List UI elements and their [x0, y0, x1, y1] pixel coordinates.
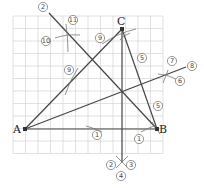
- svg-text:5: 5: [140, 54, 144, 62]
- step-label-s2a: 2: [38, 2, 47, 11]
- step-label-s11: 11: [68, 15, 77, 24]
- svg-text:2: 2: [109, 161, 113, 169]
- vertex-a-marker: [23, 127, 27, 131]
- step-label-s10: 10: [41, 36, 50, 45]
- svg-text:4: 4: [119, 172, 123, 180]
- line-8-from-a: [25, 67, 186, 129]
- step-label-s5b: 5: [153, 101, 162, 110]
- construction-lines: [25, 13, 186, 162]
- step-label-s2b: 2: [106, 160, 115, 169]
- svg-text:2: 2: [41, 3, 45, 11]
- svg-text:1: 1: [137, 135, 141, 143]
- svg-text:9: 9: [98, 34, 102, 42]
- step-label-s9a: 9: [95, 33, 104, 42]
- step-label-s3: 3: [126, 160, 135, 169]
- svg-text:10: 10: [42, 37, 50, 45]
- step-label-s1a: 1: [92, 130, 101, 139]
- side-bc: [122, 29, 157, 129]
- svg-text:1: 1: [95, 131, 99, 139]
- step-label-s6: 6: [175, 76, 184, 85]
- label-c: C: [117, 15, 125, 28]
- construction-arcs: [55, 24, 176, 168]
- step-label-s4: 4: [116, 171, 125, 180]
- svg-text:11: 11: [69, 16, 77, 24]
- step-label-s1b: 1: [134, 134, 143, 143]
- step-label-s7: 7: [167, 56, 176, 65]
- svg-text:7: 7: [170, 57, 174, 65]
- label-a: A: [12, 123, 22, 136]
- svg-text:3: 3: [129, 161, 133, 169]
- svg-text:9: 9: [67, 66, 71, 74]
- step-label-s9b: 9: [64, 65, 73, 74]
- svg-text:8: 8: [190, 62, 194, 70]
- label-b: B: [159, 123, 167, 136]
- svg-text:6: 6: [178, 77, 182, 85]
- step-label-s8: 8: [187, 61, 196, 70]
- step-label-s5a: 5: [137, 53, 146, 62]
- geometry-diagram: A B C 11223455678991011: [0, 0, 204, 188]
- side-ac: [25, 29, 122, 129]
- svg-text:5: 5: [156, 102, 160, 110]
